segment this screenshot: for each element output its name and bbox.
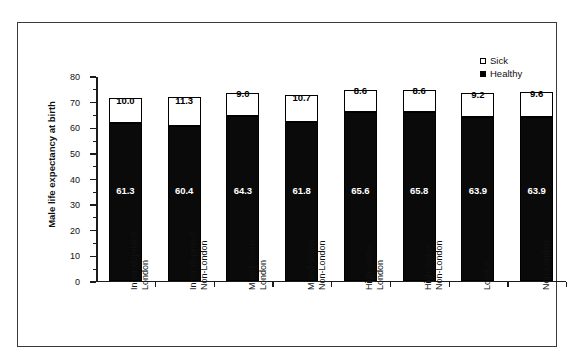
x-tick-1: [214, 282, 215, 287]
y-tick-label-0: 0: [75, 277, 80, 287]
y-tick-minor-15: [93, 243, 97, 244]
y-tick-80: [90, 76, 96, 77]
bar-value-label-sick: 8.6: [403, 84, 436, 95]
x-category-label-line2: London: [257, 239, 268, 290]
y-axis-title: Male life expectancy at birth: [46, 70, 57, 260]
y-tick-minor-25: [93, 217, 97, 218]
y-axis-line: [96, 77, 98, 282]
bar-value-label-healthy: 63.9: [461, 185, 494, 196]
legend-item-sick: Sick: [480, 54, 522, 67]
y-tick-minor-5: [93, 269, 97, 270]
x-tick-7: [566, 282, 567, 287]
figure-frame: Male life expectancy at birth Sick Healt…: [17, 22, 557, 347]
x-category-label: High-statusNon-London: [423, 240, 444, 290]
x-category-label-line1: High-status: [364, 244, 375, 290]
x-category-label-line1: High-status: [423, 240, 434, 290]
y-tick-label-70: 70: [70, 98, 80, 108]
y-tick-70: [90, 102, 96, 103]
bar-value-label-healthy: 63.9: [520, 185, 553, 196]
y-tick-minor-45: [93, 166, 97, 167]
x-tick-2: [272, 282, 273, 287]
y-tick-10: [90, 256, 96, 257]
x-category-label-line2: Non-London: [199, 232, 210, 290]
y-tick-minor-65: [93, 115, 97, 116]
y-tick-minor-35: [93, 192, 97, 193]
x-category-label: Mixed-statusNon-London: [306, 239, 327, 290]
x-category-label: Inner-deprivedLondon: [129, 232, 150, 290]
y-tick-30: [90, 204, 96, 205]
bar-value-label-healthy: 61.8: [285, 185, 318, 196]
x-tick-0: [155, 282, 156, 287]
bar-value-label-sick: 9.0: [226, 88, 259, 99]
y-tick-40: [90, 179, 96, 180]
y-tick-label-80: 80: [70, 72, 80, 82]
bar-value-label-healthy: 61.3: [109, 185, 142, 196]
y-tick-label-30: 30: [70, 200, 80, 210]
x-category-label: Non-London: [541, 240, 552, 290]
x-category-label-line1: Non-London: [541, 240, 552, 290]
y-tick-label-50: 50: [70, 149, 80, 159]
x-tick-6: [507, 282, 508, 287]
legend-swatch-healthy-icon: [480, 71, 486, 77]
y-tick-50: [90, 153, 96, 154]
x-category-label-line1: Inner-deprived: [129, 232, 140, 290]
bar-value-label-sick: 9.6: [520, 88, 553, 99]
x-category-label-line1: Mixed-status: [306, 239, 317, 290]
y-tick-minor-55: [93, 141, 97, 142]
x-tick-3: [331, 282, 332, 287]
x-category-label: Mixed-statusLondon: [247, 239, 268, 290]
x-category-label-line2: Non-London: [434, 240, 445, 290]
bar-value-label-healthy: 60.4: [168, 185, 201, 196]
x-category-label-line2: Non-London: [316, 239, 327, 290]
bar-value-label-healthy: 65.6: [344, 185, 377, 196]
bar-value-label-healthy: 64.3: [226, 185, 259, 196]
bar-value-label-sick: 11.3: [168, 95, 201, 106]
x-tick-5: [449, 282, 450, 287]
y-tick-label-10: 10: [70, 251, 80, 261]
legend-label-sick: Sick: [490, 54, 508, 67]
x-category-label-line2: London: [140, 232, 151, 290]
y-tick-label-40: 40: [70, 175, 80, 185]
x-category-label-line1: London: [482, 260, 493, 290]
bar-value-label-sick: 9.2: [461, 88, 494, 99]
bar-value-label-sick: 10.7: [285, 92, 318, 103]
x-category-label-line2: London: [375, 244, 386, 290]
bar-segment-healthy: [461, 117, 494, 281]
x-category-label-line1: Inner-deprived: [188, 232, 199, 290]
y-tick-label-60: 60: [70, 123, 80, 133]
bar-value-label-healthy: 65.8: [403, 185, 436, 196]
x-tick-4: [390, 282, 391, 287]
legend-swatch-sick-icon: [480, 58, 486, 64]
y-tick-minor-75: [93, 89, 97, 90]
x-category-label: London: [482, 260, 493, 290]
y-tick-label-20: 20: [70, 226, 80, 236]
x-category-label-line1: Mixed-status: [247, 239, 258, 290]
bar-value-label-sick: 8.6: [344, 85, 377, 96]
bar-value-label-sick: 10.0: [109, 94, 142, 105]
x-category-label: Inner-deprivedNon-London: [188, 232, 209, 290]
y-tick-20: [90, 230, 96, 231]
plot-area: 01020304050607080 10.061.311.360.49.064.…: [96, 77, 566, 282]
page-artifact-text: [150, 0, 270, 9]
bar-column: 9.263.9: [461, 93, 494, 280]
y-tick-0: [90, 281, 96, 282]
x-category-label: High-statusLondon: [364, 244, 385, 290]
y-tick-60: [90, 128, 96, 129]
